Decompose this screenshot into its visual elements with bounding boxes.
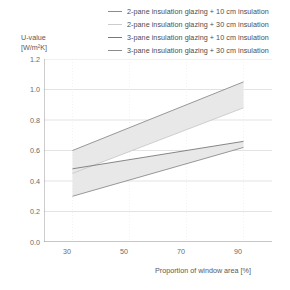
legend-item-3pane-10cm: 3-pane insulation glazing + 10 cm insula… <box>108 32 269 43</box>
x-tick-label-30: 30 <box>57 247 77 256</box>
legend-line-swatch-2pane-30cm <box>108 24 122 25</box>
data-bands <box>73 82 244 196</box>
legend-item-3pane-30cm: 3-pane insulation glazing + 30 cm insula… <box>108 45 269 56</box>
y-tick-label-0_2: 0.2 <box>18 207 40 216</box>
legend-line-swatch-2pane-10cm <box>108 11 122 12</box>
legend-label-2pane-10cm: 2-pane insulation glazing + 10 cm insula… <box>127 6 269 17</box>
legend-label-3pane-10cm: 3-pane insulation glazing + 10 cm insula… <box>127 32 269 43</box>
y-tick-label-1_2: 1.2 <box>18 55 40 64</box>
y-axis-title-line1: U-value <box>21 33 47 43</box>
legend-item-2pane-30cm: 2-pane insulation glazing + 30 cm insula… <box>108 19 269 30</box>
legend-item-2pane-10cm: 2-pane insulation glazing + 10 cm insula… <box>108 6 269 17</box>
y-tick-label-0_6: 0.6 <box>18 146 40 155</box>
chart-container: 2-pane insulation glazing + 10 cm insula… <box>0 0 290 290</box>
plot-area <box>44 59 272 242</box>
x-tick-label-70: 70 <box>171 247 191 256</box>
y-tick-label-0_8: 0.8 <box>18 116 40 125</box>
x-tick-label-90: 90 <box>228 247 248 256</box>
y-tick-label-1_0: 1.0 <box>18 85 40 94</box>
x-axis-title: Proportion of window area [%] <box>155 266 251 275</box>
legend-label-3pane-30cm: 3-pane insulation glazing + 30 cm insula… <box>127 45 269 56</box>
plot-svg <box>44 59 272 242</box>
chart-legend: 2-pane insulation glazing + 10 cm insula… <box>108 6 269 56</box>
legend-line-swatch-3pane-10cm <box>108 37 122 38</box>
legend-line-swatch-3pane-30cm <box>108 50 122 51</box>
y-tick-label-0_4: 0.4 <box>18 177 40 186</box>
y-tick-label-0_0: 0.0 <box>18 238 40 247</box>
x-tick-label-50: 50 <box>114 247 134 256</box>
legend-label-2pane-30cm: 2-pane insulation glazing + 30 cm insula… <box>127 19 269 30</box>
y-axis-title-line2: [W/m²K] <box>21 43 47 53</box>
y-axis-title: U-value [W/m²K] <box>21 33 47 52</box>
